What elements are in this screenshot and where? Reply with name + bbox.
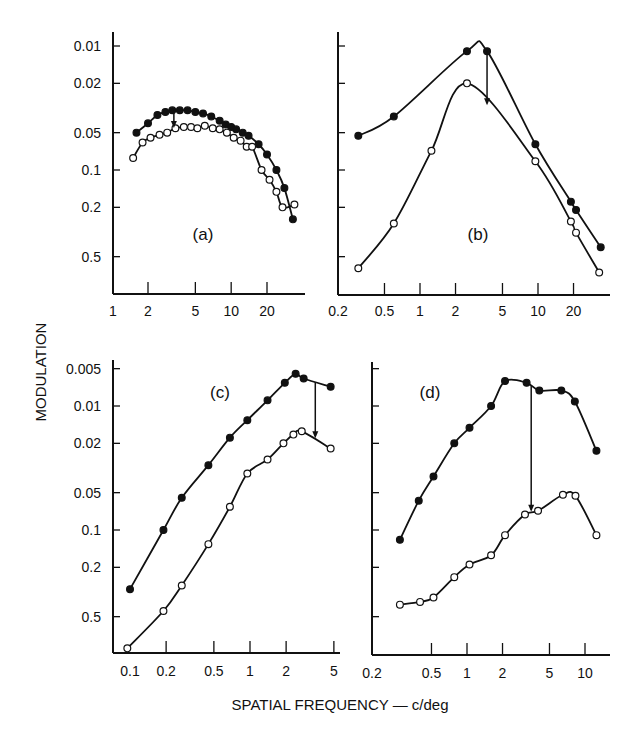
- open-data-point: [451, 574, 458, 581]
- x-axis-title: SPATIAL FREQUENCY — c/deg: [231, 696, 448, 713]
- open-curve: [358, 83, 599, 272]
- filled-data-point: [536, 387, 543, 394]
- open-data-point: [280, 440, 287, 447]
- open-data-point: [223, 129, 230, 136]
- y-tick-label: 0.5: [82, 249, 102, 265]
- open-data-point: [593, 532, 600, 539]
- panel-label: (a): [193, 225, 214, 244]
- open-data-point: [464, 80, 471, 87]
- x-tick-label: 10: [530, 303, 546, 319]
- filled-data-point: [532, 141, 539, 148]
- filled-data-point: [145, 120, 152, 127]
- filled-data-point: [192, 109, 199, 116]
- filled-data-point: [597, 244, 604, 251]
- y-tick-label: 0.01: [74, 38, 101, 54]
- open-data-point: [298, 428, 305, 435]
- filled-data-point: [233, 126, 240, 133]
- open-data-point: [147, 134, 154, 141]
- open-data-point: [430, 594, 437, 601]
- y-tick-label: 0.05: [74, 125, 101, 141]
- open-data-point: [249, 143, 256, 150]
- filled-data-point: [502, 378, 509, 385]
- x-tick-label: 1: [109, 303, 117, 319]
- open-data-point: [573, 229, 580, 236]
- open-data-point: [397, 601, 404, 608]
- open-data-point: [156, 131, 163, 138]
- panel-c: 0.0050.010.020.050.10.20.50.10.20.5125(c…: [66, 360, 340, 679]
- x-tick-label: 0.2: [328, 303, 348, 319]
- y-tick-label: 0.2: [82, 559, 102, 575]
- filled-data-point: [558, 387, 565, 394]
- open-data-point: [227, 503, 234, 510]
- x-tick-label: 2: [144, 303, 152, 319]
- y-tick-label: 0.01: [74, 398, 101, 414]
- filled-data-point: [573, 207, 580, 214]
- x-tick-label: 0.2: [156, 663, 176, 679]
- open-data-point: [201, 122, 208, 129]
- y-tick-label: 0.2: [82, 199, 102, 215]
- open-data-point: [188, 124, 195, 131]
- x-tick-label: 1: [246, 663, 254, 679]
- panel-label: (d): [420, 383, 441, 402]
- filled-data-point: [176, 107, 183, 114]
- y-tick-label: 0.02: [74, 435, 101, 451]
- open-data-point: [290, 431, 297, 438]
- filled-data-point: [327, 383, 334, 390]
- x-tick-label: 20: [566, 303, 582, 319]
- open-data-point: [258, 167, 265, 174]
- filled-data-point: [133, 129, 140, 136]
- filled-data-point: [227, 434, 234, 441]
- x-tick-label: 5: [191, 303, 199, 319]
- filled-data-point: [289, 216, 296, 223]
- filled-data-point: [390, 113, 397, 120]
- filled-data-point: [154, 112, 161, 119]
- filled-data-point: [523, 379, 530, 386]
- filled-data-point: [245, 132, 252, 139]
- filled-data-point: [281, 185, 288, 192]
- open-data-point: [264, 456, 271, 463]
- y-tick-label: 0.02: [74, 75, 101, 91]
- x-tick-label: 5: [546, 665, 554, 681]
- y-tick-label: 0.005: [66, 361, 101, 377]
- filled-data-point: [162, 109, 169, 116]
- open-data-point: [194, 125, 201, 132]
- x-tick-label: 0.2: [362, 665, 382, 681]
- x-tick-label: 1: [463, 665, 471, 681]
- filled-data-point: [200, 110, 207, 117]
- filled-curve: [358, 41, 600, 247]
- open-data-point: [327, 445, 334, 452]
- open-data-point: [596, 269, 603, 276]
- y-tick-label: 0.05: [74, 485, 101, 501]
- filled-data-point: [355, 132, 362, 139]
- filled-data-point: [593, 447, 600, 454]
- filled-data-point: [184, 107, 191, 114]
- x-tick-label: 1: [416, 303, 424, 319]
- filled-data-point: [169, 107, 176, 114]
- arrow-head-icon: [528, 505, 534, 512]
- x-tick-label: 2: [499, 665, 507, 681]
- filled-data-point: [464, 48, 471, 55]
- filled-curve: [400, 379, 597, 539]
- open-data-point: [209, 125, 216, 132]
- y-tick-label: 0.1: [82, 522, 102, 538]
- filled-data-point: [415, 497, 422, 504]
- filled-data-point: [281, 379, 288, 386]
- filled-data-point: [216, 117, 223, 124]
- open-data-point: [266, 176, 273, 183]
- filled-data-point: [178, 494, 185, 501]
- figure: 0.010.020.050.10.20.51251020(a)0.20.5125…: [0, 0, 638, 740]
- open-data-point: [230, 134, 237, 141]
- open-data-point: [139, 139, 146, 146]
- open-data-point: [291, 201, 298, 208]
- open-data-point: [216, 126, 223, 133]
- filled-data-point: [571, 398, 578, 405]
- y-axis-title: MODULATION: [32, 323, 49, 422]
- open-data-point: [180, 124, 187, 131]
- arrow-head-icon: [484, 98, 490, 105]
- open-curve: [400, 492, 597, 605]
- open-data-point: [417, 598, 424, 605]
- filled-data-point: [160, 527, 167, 534]
- x-tick-label: 20: [259, 303, 275, 319]
- filled-data-point: [292, 370, 299, 377]
- filled-data-point: [300, 375, 307, 382]
